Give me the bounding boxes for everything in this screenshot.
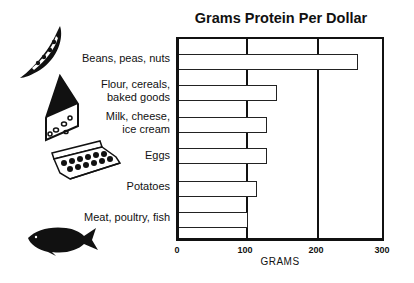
category-label-flour: Flour, cereals, baked goods bbox=[101, 78, 170, 103]
pea-pod-icon bbox=[18, 24, 66, 80]
category-label-line: Flour, cereals, bbox=[101, 78, 170, 91]
egg-carton-icon bbox=[50, 137, 122, 183]
category-label-potatoes: Potatoes bbox=[127, 180, 170, 193]
x-axis-label: GRAMS bbox=[260, 256, 299, 267]
chart-title: Grams Protein Per Dollar bbox=[176, 10, 386, 26]
x-tick-300: 300 bbox=[374, 245, 389, 255]
x-tick-200: 200 bbox=[308, 245, 323, 255]
category-label-line: baked goods bbox=[101, 91, 170, 104]
category-label-eggs: Eggs bbox=[145, 149, 170, 162]
category-label-line: Milk, cheese, bbox=[106, 110, 170, 123]
bar-potatoes bbox=[179, 181, 257, 197]
bar-eggs bbox=[179, 148, 267, 164]
category-label-line: Eggs bbox=[145, 149, 170, 162]
category-label-beans: Beans, peas, nuts bbox=[82, 52, 170, 65]
category-label-line: Meat, poultry, fish bbox=[84, 211, 170, 224]
bar-milk bbox=[179, 117, 267, 133]
x-tick-0: 0 bbox=[174, 245, 179, 255]
category-label-line: Potatoes bbox=[127, 180, 170, 193]
category-label-milk: Milk, cheese, ice cream bbox=[106, 110, 170, 135]
category-label-meat: Meat, poultry, fish bbox=[84, 211, 170, 224]
fish-icon bbox=[26, 224, 100, 256]
bar-meat bbox=[179, 212, 248, 228]
cheese-wedge-icon bbox=[42, 74, 82, 144]
x-tick-100: 100 bbox=[237, 245, 252, 255]
plot-area bbox=[176, 37, 384, 241]
category-label-line: Beans, peas, nuts bbox=[82, 52, 170, 65]
bar-flour bbox=[179, 85, 277, 101]
category-label-line: ice cream bbox=[106, 123, 170, 136]
bar-beans bbox=[179, 54, 358, 70]
